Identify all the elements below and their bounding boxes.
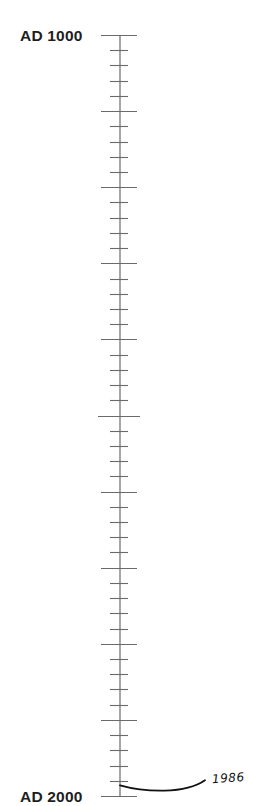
tick-marks — [98, 36, 140, 797]
timeline-axis — [0, 0, 265, 806]
annotation-label: 1986 — [212, 770, 245, 786]
annotation-curve — [120, 780, 205, 790]
